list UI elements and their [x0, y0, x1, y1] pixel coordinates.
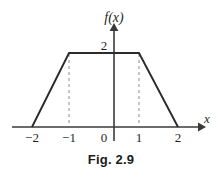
function-curve: [32, 53, 178, 127]
x-tick-label-minus-2: −2: [25, 130, 39, 145]
x-axis-name-label: x: [203, 111, 210, 126]
x-tick-label-two: 2: [175, 130, 182, 145]
x-tick-label-zero: 0: [101, 130, 108, 145]
x-tick-label-minus-1: −1: [62, 130, 76, 145]
function-name-label: f(x): [104, 10, 124, 26]
y-tick-label-two: 2: [101, 38, 108, 53]
x-tick-label-one: 1: [136, 130, 143, 145]
figure-container: −2 −1 0 1 2 2 f(x) x Fig. 2.9: [0, 0, 222, 181]
figure-caption: Fig. 2.9: [0, 152, 222, 167]
